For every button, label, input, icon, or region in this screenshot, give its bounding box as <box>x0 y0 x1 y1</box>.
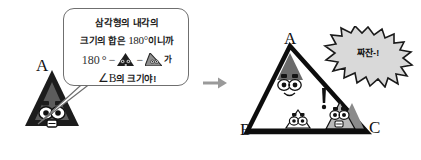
speech-line-2-suffix: 이니까 <box>148 35 174 46</box>
right-arrow-icon <box>202 74 228 92</box>
speech-line-2-number: 180 <box>128 34 144 46</box>
equation-number: 180 <box>82 54 100 66</box>
equation-degree: ° <box>102 54 107 66</box>
speech-bubble: 삼각형의 내각의 크기의 합은 180°이니까 180 ° − <box>63 8 189 86</box>
speech-angle-b: ∠B <box>98 72 116 84</box>
speech-line-4: ∠B의 크기야! <box>64 73 190 85</box>
dark-triangle-character-icon <box>117 53 134 66</box>
speech-line-2-prefix: 크기의 합은 <box>80 35 128 46</box>
speech-equation-row: 180 ° − − <box>64 53 190 66</box>
speech-line-2: 크기의 합은 180°이니까 <box>64 35 190 46</box>
equation-minus-1: − <box>109 54 116 66</box>
speech-line-4-text: 의 크기야! <box>116 73 156 84</box>
gray-triangle-character-icon <box>145 53 162 66</box>
speech-line-1: 삼각형의 내각의 <box>64 18 190 27</box>
illustration-canvas: 삼각형의 내각의 크기의 합은 180°이니까 180 ° − <box>0 0 421 160</box>
equation-particle: 가 <box>164 55 172 64</box>
starburst-text: 짜잔-! <box>322 46 414 59</box>
equation-minus-2: − <box>136 54 143 66</box>
